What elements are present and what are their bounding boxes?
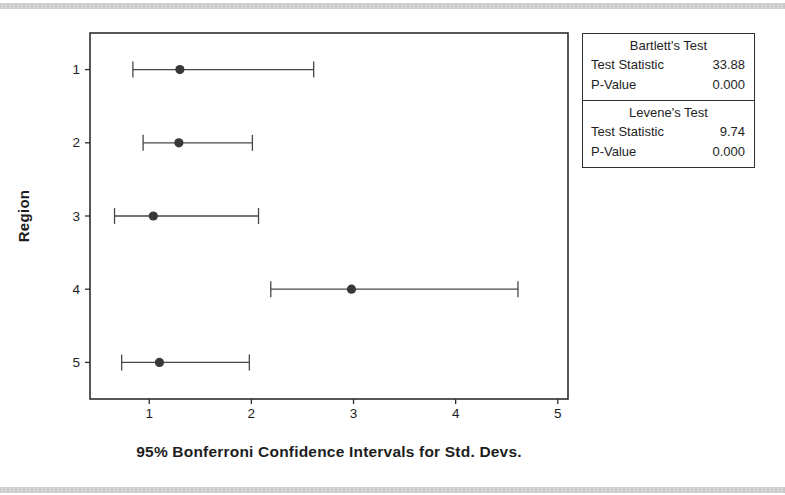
page-edge-texture-bottom (0, 487, 785, 493)
levene-statistic-value: 9.74 (720, 123, 745, 141)
bartlett-pvalue-value: 0.000 (712, 76, 745, 94)
levene-statistic-label: Test Statistic (591, 123, 664, 141)
y-axis-tick-label: 1 (72, 62, 80, 77)
y-axis-tick-label: 4 (72, 282, 80, 297)
std-dev-point (174, 138, 183, 147)
bartlett-statistic-value: 33.88 (712, 56, 745, 74)
bartlett-pvalue-label: P-Value (591, 76, 636, 94)
levene-test-box: Levene's Test Test Statistic 9.74 P-Valu… (582, 100, 755, 168)
levene-statistic-row: Test Statistic 9.74 (583, 122, 754, 142)
confidence-interval-region-3 (115, 208, 259, 224)
x-axis-tick-label: 4 (452, 406, 460, 421)
x-axis-tick-label: 1 (145, 406, 153, 421)
bartlett-statistic-row: Test Statistic 33.88 (583, 55, 754, 75)
confidence-interval-region-5 (122, 354, 250, 370)
y-axis-tick-label: 3 (72, 209, 80, 224)
std-dev-point (175, 65, 184, 74)
confidence-interval-region-4 (271, 281, 518, 297)
levene-pvalue-row: P-Value 0.000 (583, 142, 754, 162)
x-axis-title: 95% Bonferroni Confidence Intervals for … (90, 443, 568, 461)
y-axis-label-text: Region (15, 190, 32, 243)
bartlett-test-title: Bartlett's Test (583, 37, 754, 55)
bartlett-statistic-label: Test Statistic (591, 56, 664, 74)
variance-test-figure: 1234512345 Region 95% Bonferroni Confide… (0, 0, 785, 495)
std-dev-point (155, 358, 164, 367)
y-axis-tick-label: 2 (72, 135, 80, 150)
levene-pvalue-label: P-Value (591, 143, 636, 161)
y-axis-tick-label: 5 (72, 355, 80, 370)
std-dev-point (149, 211, 158, 220)
confidence-interval-region-2 (143, 135, 252, 151)
x-axis-tick-label: 5 (554, 406, 562, 421)
confidence-interval-region-1 (133, 62, 314, 78)
std-dev-point (347, 285, 356, 294)
levene-pvalue-value: 0.000 (712, 143, 745, 161)
bartlett-test-box: Bartlett's Test Test Statistic 33.88 P-V… (582, 33, 755, 101)
tests-results-panel: Bartlett's Test Test Statistic 33.88 P-V… (582, 33, 755, 168)
bartlett-pvalue-row: P-Value 0.000 (583, 75, 754, 95)
x-axis-tick-label: 2 (248, 406, 256, 421)
x-axis-tick-label: 3 (350, 406, 358, 421)
levene-test-title: Levene's Test (583, 104, 754, 122)
